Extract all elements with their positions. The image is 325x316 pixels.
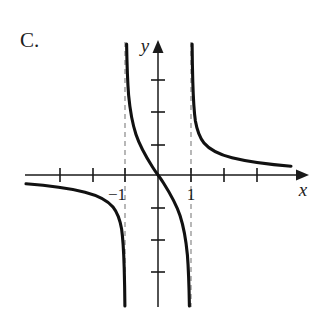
y-axis-label: y xyxy=(139,35,150,56)
x-axis-label: x xyxy=(298,179,308,200)
figure-label: C. xyxy=(20,28,39,52)
x-tick-label-neg-one: −1 xyxy=(108,185,126,204)
rational-function-plot: C. y x −1 1 xyxy=(0,0,325,316)
graph-figure: C. y x −1 1 xyxy=(0,0,325,316)
plot-background xyxy=(0,0,325,316)
x-tick-label-pos-one: 1 xyxy=(187,185,196,204)
